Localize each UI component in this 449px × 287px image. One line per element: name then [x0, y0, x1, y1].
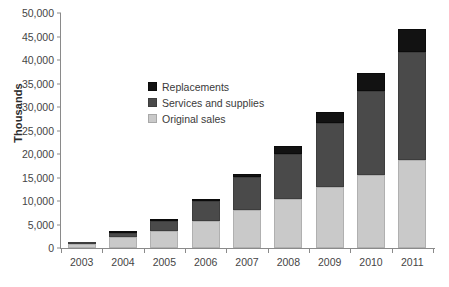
bar-stack — [398, 13, 426, 248]
bar-segment-services-and-supplies — [398, 52, 426, 161]
x-axis-tick-mark — [392, 248, 393, 253]
x-axis-tick-label: 2008 — [277, 256, 300, 268]
y-axis-tick-label: 35,000 — [22, 78, 61, 90]
bar-segment-original-sales — [150, 231, 178, 248]
bar-segment-replacements — [150, 219, 178, 221]
y-axis-tick-mark — [57, 107, 61, 108]
legend-label-replacements: Replacements — [162, 81, 229, 93]
x-axis-tick-mark — [350, 248, 351, 253]
bar-segment-services-and-supplies — [150, 221, 178, 230]
y-axis-tick-mark — [57, 13, 61, 14]
x-axis-line — [60, 248, 435, 249]
y-axis-tick-mark — [57, 154, 61, 155]
bar-segment-original-sales — [316, 187, 344, 248]
bar-segment-original-sales — [192, 221, 220, 248]
legend-item-original-sales: Original sales — [148, 111, 264, 126]
bar-segment-original-sales — [398, 160, 426, 248]
x-axis-tick-label: 2004 — [111, 256, 134, 268]
x-axis-tick-label: 2005 — [153, 256, 176, 268]
x-axis-tick-mark — [61, 248, 62, 253]
bar-stack — [68, 13, 96, 248]
x-axis-tick-mark — [226, 248, 227, 253]
x-axis-tick-mark — [433, 248, 434, 253]
bar-segment-replacements — [109, 231, 137, 233]
bar-segment-original-sales — [233, 210, 261, 248]
y-axis-tick-mark — [57, 177, 61, 178]
y-axis-tick-label: 40,000 — [22, 54, 61, 66]
legend-swatch-icon-original-sales — [148, 114, 157, 123]
y-axis-tick-label: 25,000 — [22, 125, 61, 137]
y-axis-tick-mark — [57, 60, 61, 61]
bar-segment-services-and-supplies — [274, 154, 302, 199]
bar-stack — [233, 13, 261, 248]
x-axis-tick-mark — [309, 248, 310, 253]
x-axis-tick-label: 2011 — [401, 256, 424, 268]
x-axis-tick-label: 2009 — [318, 256, 341, 268]
bar-segment-services-and-supplies — [192, 201, 220, 221]
chart-legend: Replacements Services and supplies Origi… — [148, 79, 264, 127]
bar-segment-replacements — [357, 73, 385, 91]
y-axis-tick-mark — [57, 36, 61, 37]
figure-caption — [28, 278, 428, 287]
bar-stack — [192, 13, 220, 248]
y-axis-tick-label: 15,000 — [22, 172, 61, 184]
bar-segment-services-and-supplies — [233, 177, 261, 210]
legend-item-services-and-supplies: Services and supplies — [148, 95, 264, 110]
x-axis-tick-label: 2003 — [70, 256, 93, 268]
stacked-bar-chart: Thousands 50,00045,00040,00035,00030,000… — [0, 0, 449, 287]
y-axis-tick-label: 50,000 — [22, 7, 61, 19]
y-axis-tick-mark — [57, 130, 61, 131]
plot-area: 50,00045,00040,00035,00030,00025,00020,0… — [61, 13, 433, 248]
legend-swatch-icon-services-and-supplies — [148, 98, 157, 107]
x-axis-tick-mark — [185, 248, 186, 253]
legend-label-original-sales: Original sales — [162, 113, 226, 125]
y-axis-tick-mark — [57, 83, 61, 84]
x-axis-tick-label: 2006 — [194, 256, 217, 268]
y-axis-tick-label: 45,000 — [22, 31, 61, 43]
bar-segment-replacements — [398, 29, 426, 51]
y-axis-tick-mark — [57, 201, 61, 202]
x-axis-tick-label: 2007 — [235, 256, 258, 268]
bar-segment-services-and-supplies — [357, 91, 385, 175]
y-axis-tick-label: 5,000 — [28, 219, 61, 231]
bar-segment-replacements — [233, 174, 261, 177]
legend-swatch-icon-replacements — [148, 82, 157, 91]
bar-segment-replacements — [274, 146, 302, 154]
bar-segment-replacements — [316, 112, 344, 123]
bar-segment-services-and-supplies — [109, 233, 137, 237]
bar-segment-services-and-supplies — [316, 123, 344, 187]
y-axis-tick-label: 20,000 — [22, 148, 61, 160]
bar-segment-original-sales — [274, 199, 302, 248]
bar-stack — [357, 13, 385, 248]
bar-stack — [109, 13, 137, 248]
legend-label-services-and-supplies: Services and supplies — [162, 97, 264, 109]
bar-stack — [150, 13, 178, 248]
y-axis-tick-label: 10,000 — [22, 195, 61, 207]
y-axis-tick-label: 30,000 — [22, 101, 61, 113]
x-axis-tick-mark — [268, 248, 269, 253]
bar-stack — [274, 13, 302, 248]
x-axis-tick-mark — [144, 248, 145, 253]
bar-segment-original-sales — [109, 237, 137, 248]
bar-segment-services-and-supplies — [68, 242, 96, 244]
y-axis-tick-mark — [57, 224, 61, 225]
bar-segment-original-sales — [357, 175, 385, 248]
bar-stack — [316, 13, 344, 248]
legend-item-replacements: Replacements — [148, 79, 264, 94]
x-axis-tick-mark — [102, 248, 103, 253]
bar-segment-original-sales — [68, 244, 96, 248]
x-axis-tick-label: 2010 — [359, 256, 382, 268]
bar-segment-replacements — [192, 199, 220, 201]
